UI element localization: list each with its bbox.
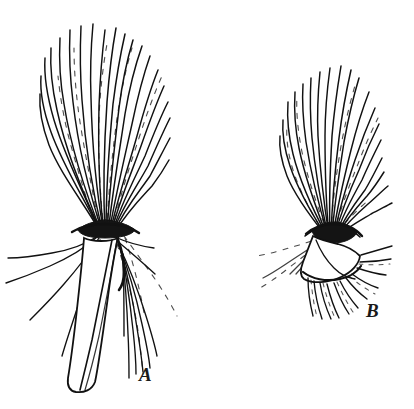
botanical-figure: A B: [0, 0, 414, 409]
panel-a-label: A: [139, 365, 152, 384]
figure-background: [0, 0, 414, 409]
figure-illustration: [0, 0, 414, 409]
panel-b-label: B: [366, 301, 379, 320]
